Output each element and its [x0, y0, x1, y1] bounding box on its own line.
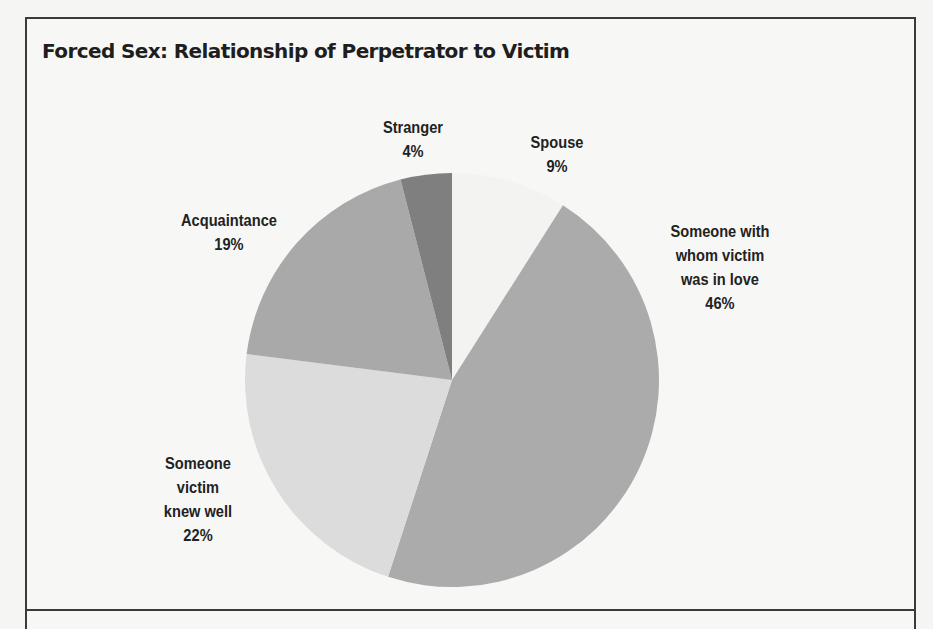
label-text: Acquaintance: [181, 209, 277, 233]
label-text: victim: [164, 476, 232, 500]
label-percent: 9%: [531, 155, 584, 179]
label-text: Stranger: [383, 116, 443, 140]
label-text: Spouse: [531, 131, 584, 155]
label-love: Someone with whom victim was in love 46%: [670, 220, 769, 316]
label-percent: 4%: [383, 140, 443, 164]
label-percent: 19%: [181, 233, 277, 257]
label-knew-well: Someone victim knew well 22%: [164, 452, 232, 548]
label-text: knew well: [164, 500, 232, 524]
label-spouse: Spouse 9%: [531, 131, 584, 179]
pie-slices: [245, 173, 659, 587]
label-text: was in love: [670, 268, 769, 292]
label-text: Someone with: [670, 220, 769, 244]
label-text: Someone: [164, 452, 232, 476]
label-text: whom victim: [670, 244, 769, 268]
label-acquaintance: Acquaintance 19%: [181, 209, 277, 257]
label-stranger: Stranger 4%: [383, 116, 443, 164]
label-percent: 22%: [164, 524, 232, 548]
label-percent: 46%: [670, 292, 769, 316]
